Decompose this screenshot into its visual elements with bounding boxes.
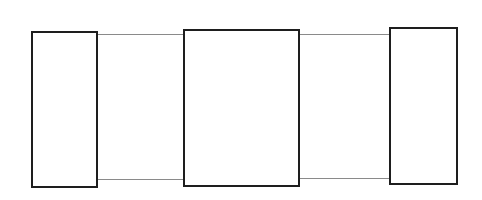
- connector-line-left-middle-top: [98, 34, 183, 35]
- rectangle-left: [31, 31, 98, 188]
- diagram-canvas: [0, 0, 482, 200]
- connector-line-middle-right-top: [300, 34, 389, 35]
- connector-line-left-middle-bottom: [98, 179, 183, 180]
- rectangle-right: [389, 27, 458, 185]
- rectangle-middle: [183, 29, 300, 187]
- connector-line-middle-right-bottom: [300, 178, 389, 179]
